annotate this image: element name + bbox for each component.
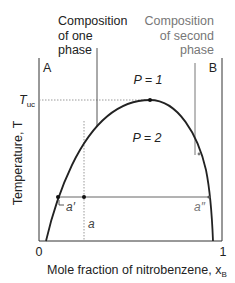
two-phase-region-label: P = 2 [132,131,161,145]
one-phase-callout-line3: phase [58,43,92,57]
a-label: a [88,217,95,231]
one-phase-callout-line1: Composition [58,14,128,28]
critical-point [148,98,152,102]
tuc-tick-label: Tuc [19,93,35,109]
a-prime-bracket [59,200,64,205]
a-double-prime-label: a″ [194,200,206,214]
y-axis-label: Temperature, T [11,120,25,205]
a-prime-label: a′ [66,200,76,214]
x-axis-label: Mole fraction of nitrobenzene, xB [47,263,227,279]
x-tick-1: 1 [220,245,227,259]
x-tick-0: 0 [36,245,43,259]
point-a-prime [56,195,60,199]
phase-diagram: Composition of one phase Composition of … [0,0,235,283]
component-a-label: A [43,61,52,75]
point-a-double-prime [207,195,210,198]
component-b-label: B [209,61,217,75]
coexistence-curve [46,100,213,241]
second-phase-callout-line3: phase [180,43,214,57]
one-phase-callout-line2: of one [58,29,93,43]
second-phase-point [198,153,201,156]
point-a [82,195,86,199]
second-phase-callout-line1: Composition [145,14,215,28]
one-phase-region-label: P = 1 [133,73,162,87]
second-phase-callout-line2: of second [160,29,214,43]
